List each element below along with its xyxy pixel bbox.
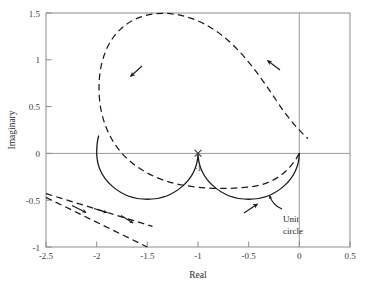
y-tick-labels: 1.5 1 0.5 0 -0.5 -1 — [26, 9, 41, 253]
y-axis-title: Imaginary — [7, 110, 17, 149]
x-tick-label-1: -2 — [93, 251, 101, 261]
series-root-locus-outer — [99, 13, 308, 188]
pole-marker-label: -1 — [194, 163, 201, 173]
x-tick-label-2: -1.5 — [140, 251, 155, 261]
y-tick-label-3: 0 — [36, 149, 41, 159]
origin-axes — [46, 13, 350, 247]
frame-box — [46, 13, 350, 247]
y-tick-label-5: -1 — [33, 243, 41, 253]
arrow-upper-left-icon — [131, 66, 143, 77]
x-tick-label-5: 0 — [297, 251, 302, 261]
arrow-upper-right-icon — [268, 61, 281, 71]
x-axis-title: Real — [189, 270, 207, 280]
unit-circle-annotation: Unit circle — [270, 196, 303, 237]
y-tick-label-0: 1.5 — [29, 9, 41, 19]
unit-circle-leader-arrow-icon — [270, 196, 283, 210]
x-tick-labels: -2.5 -2 -1.5 -1 -0.5 0 0.5 — [39, 251, 356, 261]
arrow-asymptote-lower-icon — [72, 206, 86, 213]
figure-root: -2.5 -2 -1.5 -1 -0.5 0 0.5 1.5 1 0.5 0 -… — [0, 0, 375, 290]
y-axis-ticks — [46, 13, 52, 247]
x-tick-label-3: -1 — [194, 251, 202, 261]
plot-frame — [46, 13, 350, 247]
arrow-asymptote-upper-icon — [94, 209, 107, 213]
y-tick-label-2: 0.5 — [29, 102, 41, 112]
series-asymptotes — [46, 194, 153, 247]
root-locus-dashed-path — [99, 13, 308, 188]
y-tick-label-1: 1 — [36, 55, 41, 65]
x-tick-label-4: -0.5 — [242, 251, 257, 261]
arrow-lower-right-icon — [244, 204, 258, 213]
unit-circle-label-line1: Unit — [283, 214, 300, 224]
unit-circle-label-line2: circle — [283, 226, 303, 236]
chart-canvas: -2.5 -2 -1.5 -1 -0.5 0 0.5 1.5 1 0.5 0 -… — [0, 0, 375, 290]
x-tick-label-6: 0.5 — [344, 251, 356, 261]
y-tick-label-4: -0.5 — [26, 196, 41, 206]
x-axis-ticks — [46, 242, 350, 248]
x-tick-label-0: -2.5 — [39, 251, 54, 261]
